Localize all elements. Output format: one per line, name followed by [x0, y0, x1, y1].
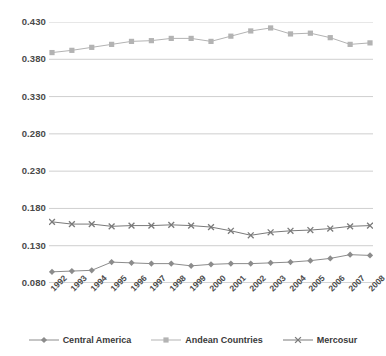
y-tick-label: 0.330 — [2, 92, 46, 102]
legend-label: Andean Countries — [185, 335, 263, 345]
data-point-square — [248, 28, 253, 33]
data-point-square — [149, 38, 154, 43]
data-point-diamond — [327, 255, 333, 261]
data-point-diamond — [208, 261, 214, 267]
data-point-diamond — [367, 252, 373, 258]
data-point-diamond — [307, 258, 313, 264]
data-point-square — [328, 35, 333, 40]
line-chart: 0.4300.3800.3300.2800.2300.1800.1300.080… — [0, 0, 386, 356]
data-point-square — [69, 48, 74, 53]
legend-marker-cross — [283, 335, 313, 345]
series-line — [49, 252, 373, 275]
x-axis: 1992199319941995199619971998199920002001… — [49, 287, 373, 327]
data-point-diamond — [268, 260, 274, 266]
data-point-diamond — [109, 259, 115, 265]
data-point-square — [164, 337, 169, 342]
data-point-diamond — [168, 261, 174, 267]
series-line — [49, 219, 373, 238]
data-point-square — [129, 39, 134, 44]
data-point-diamond — [49, 269, 55, 275]
legend-item[interactable]: Central America — [29, 335, 132, 345]
data-point-diamond — [69, 268, 75, 274]
legend-marker-square — [151, 335, 181, 345]
data-point-square — [308, 31, 313, 36]
data-point-square — [169, 36, 174, 41]
data-point-square — [348, 42, 353, 47]
plot-area — [49, 22, 373, 283]
y-tick-label: 0.130 — [2, 241, 46, 251]
data-point-square — [268, 25, 273, 30]
data-point-square — [208, 39, 213, 44]
plot-svg — [49, 22, 373, 283]
y-tick-label: 0.180 — [2, 203, 46, 213]
y-axis: 0.4300.3800.3300.2800.2300.1800.1300.080 — [0, 0, 46, 356]
y-tick-label: 0.080 — [2, 278, 46, 288]
chart-legend: Central AmericaAndean CountriesMercosur — [0, 330, 386, 350]
data-point-diamond — [248, 261, 254, 267]
data-point-diamond — [347, 252, 353, 258]
data-point-square — [367, 40, 372, 45]
y-tick-label: 0.230 — [2, 166, 46, 176]
y-tick-label: 0.430 — [2, 17, 46, 27]
data-point-square — [109, 42, 114, 47]
data-point-square — [89, 45, 94, 50]
data-point-square — [228, 34, 233, 39]
data-point-diamond — [148, 261, 154, 267]
series-path — [52, 222, 370, 235]
series-line — [49, 25, 372, 55]
legend-label: Central America — [63, 335, 132, 345]
series-layer — [49, 25, 373, 275]
legend-marker-diamond — [29, 335, 59, 345]
data-point-diamond — [128, 260, 134, 266]
legend-label: Mercosur — [317, 335, 358, 345]
legend-item[interactable]: Andean Countries — [151, 335, 263, 345]
data-point-diamond — [41, 337, 47, 343]
legend-item[interactable]: Mercosur — [283, 335, 358, 345]
y-tick-label: 0.380 — [2, 54, 46, 64]
data-point-square — [189, 36, 194, 41]
data-point-diamond — [89, 267, 95, 273]
data-point-diamond — [188, 263, 194, 269]
gridlines — [49, 22, 373, 283]
y-tick-label: 0.280 — [2, 129, 46, 139]
data-point-square — [288, 31, 293, 36]
data-point-diamond — [228, 261, 234, 267]
data-point-diamond — [287, 259, 293, 265]
data-point-square — [49, 50, 54, 55]
